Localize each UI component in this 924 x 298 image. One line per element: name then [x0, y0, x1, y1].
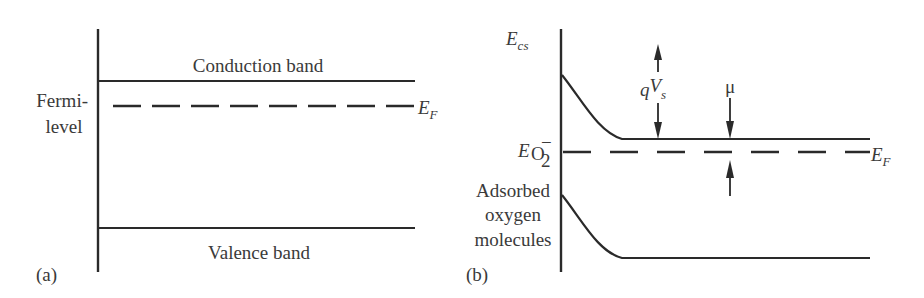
ecs-label: Ecs: [505, 28, 528, 53]
panel-a: Conduction band Valence band Fermi- leve…: [36, 29, 439, 286]
fermi-label-line2: level: [46, 116, 83, 137]
valence-band-bent-curve: [562, 195, 870, 258]
fermi-label-line1: Fermi-: [36, 90, 88, 111]
valence-band-label: Valence band: [208, 242, 310, 263]
mu-arrows: [726, 98, 734, 196]
adsorbed-label-line1: Adsorbed: [476, 180, 550, 201]
eo2-label: E: [517, 140, 530, 161]
panel-b: qVs μ Ecs E O 2 − Adsorbed oxygen molecu…: [466, 28, 892, 286]
eo2-superscript: −: [541, 132, 552, 153]
ef-label-b: EF: [870, 144, 892, 169]
conduction-band-bent-curve: [562, 75, 870, 139]
band-diagram: Conduction band Valence band Fermi- leve…: [0, 0, 924, 298]
qvs-label: qVs: [640, 75, 666, 102]
conduction-band-label: Conduction band: [193, 55, 324, 76]
panel-a-tag: (a): [36, 264, 57, 286]
ef-label-a: EF: [417, 97, 439, 122]
arrow-down-icon: [726, 121, 734, 139]
arrow-down-icon: [654, 122, 662, 139]
mu-label: μ: [725, 76, 735, 97]
eo2-subscript-2: 2: [541, 150, 551, 171]
arrow-up-icon: [726, 160, 734, 178]
adsorbed-label-line3: molecules: [474, 229, 551, 250]
adsorbed-label-line2: oxygen: [485, 204, 541, 225]
panel-b-tag: (b): [466, 264, 488, 286]
arrow-up-icon: [654, 44, 662, 60]
